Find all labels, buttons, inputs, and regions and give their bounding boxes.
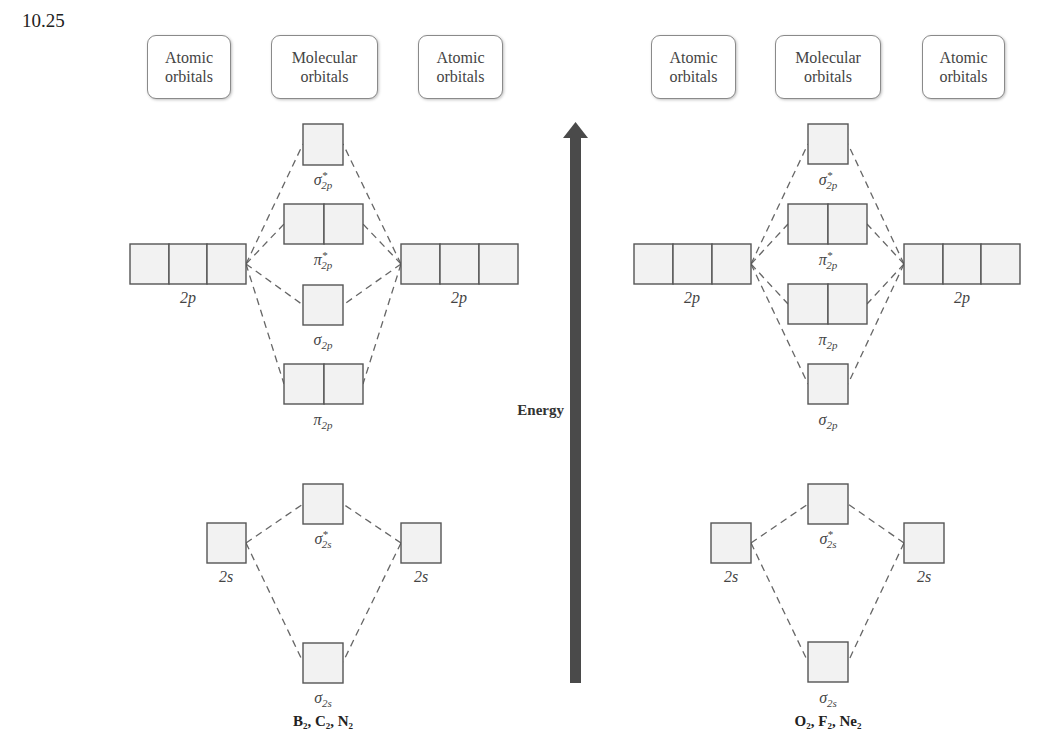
atomic-orbital-2s-left: 2s <box>711 523 751 585</box>
svg-text:π*2p: π*2p <box>819 249 838 271</box>
svg-text:σ2p: σ2p <box>819 411 838 431</box>
diagram-b2-c2-n2: 2p 2p σ*2p π*2p σ2p π2p <box>130 124 518 729</box>
svg-text:σ2p: σ2p <box>314 331 333 351</box>
svg-text:σ*2p: σ*2p <box>314 169 333 191</box>
label-2s: 2s <box>414 568 428 585</box>
svg-text:π2p: π2p <box>313 411 333 431</box>
label-2p: 2p <box>180 289 196 307</box>
atomic-orbital-2p-left: 2p <box>634 244 751 307</box>
atomic-orbital-2s-right: 2s <box>401 523 441 585</box>
label-2p: 2p <box>954 289 970 307</box>
molecule-label: O₂, F₂, Ne₂ <box>795 713 862 729</box>
energy-label: Energy <box>517 402 564 418</box>
atomic-orbital-2s-left: 2s <box>207 523 246 585</box>
mo-sigma-2p: σ2p <box>808 364 848 431</box>
mo-sigma-2p: σ2p <box>303 285 343 351</box>
label-2s: 2s <box>219 568 233 585</box>
energy-arrow-shaft <box>570 136 581 683</box>
svg-text:σ*2s: σ*2s <box>819 528 836 550</box>
mo-pi-star-2p: π*2p <box>284 204 363 271</box>
atomic-orbital-2p-right: 2p <box>401 244 518 307</box>
label-2s: 2s <box>917 568 931 585</box>
mo-sigma-star-2s: σ*2s <box>303 484 343 550</box>
mo-sigma-2s: σ2s <box>808 642 848 709</box>
mo-sigma-star-2p: σ*2p <box>808 124 848 191</box>
svg-text:π2p: π2p <box>818 331 838 351</box>
mo-pi-star-2p: π*2p <box>788 204 867 271</box>
mo-sigma-2s: σ2s <box>303 643 343 709</box>
atomic-orbital-2s-right: 2s <box>904 523 944 585</box>
label-2s: 2s <box>724 568 738 585</box>
label-2p: 2p <box>451 289 467 307</box>
energy-axis: Energy <box>517 122 588 683</box>
atomic-orbital-2p-right: 2p <box>904 244 1020 307</box>
svg-text:σ*2p: σ*2p <box>819 169 838 191</box>
mo-diagram-canvas: 2p 2p σ*2p π*2p σ2p π2p <box>0 0 1042 747</box>
svg-text:σ2s: σ2s <box>819 689 837 709</box>
mo-pi-2p: π2p <box>284 364 363 431</box>
atomic-orbital-2p-left: 2p <box>130 244 246 307</box>
mo-pi-2p: π2p <box>788 284 867 351</box>
molecule-label: B₂, C₂, N₂ <box>293 713 354 729</box>
arrow-up-icon <box>563 122 588 138</box>
label-2p: 2p <box>684 289 700 307</box>
svg-text:σ*2s: σ*2s <box>314 528 331 550</box>
diagram-o2-f2-ne2: 2p 2p σ*2p π*2p π2p σ2p 2s <box>634 124 1020 729</box>
mo-sigma-star-2s: σ*2s <box>808 484 848 550</box>
mo-sigma-star-2p: σ*2p <box>303 124 343 191</box>
svg-text:σ2s: σ2s <box>314 689 332 709</box>
svg-text:π*2p: π*2p <box>314 249 333 271</box>
